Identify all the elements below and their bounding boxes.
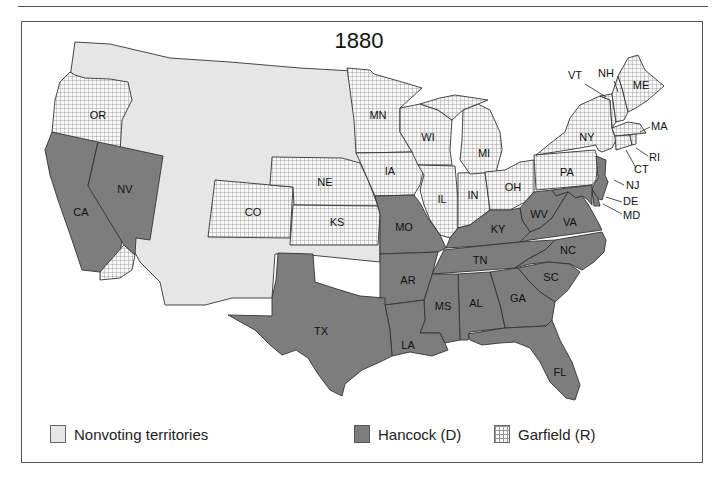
label-CO: CO [245,206,262,218]
hancock-swatch [354,425,370,443]
label-KS: KS [330,216,345,228]
label-IN: IN [468,189,479,201]
label-NH: NH [598,67,614,79]
label-MN: MN [369,109,386,121]
label-IL: IL [437,193,446,205]
map-title: 1880 [0,28,718,54]
us-electoral-map: OR CA NV CO NE KS TX MN IA MO AR LA WI I… [0,0,718,484]
label-CT: CT [634,163,649,175]
state-FL[interactable] [468,320,580,400]
label-NE: NE [317,176,332,188]
label-NV: NV [117,183,133,195]
state-CT[interactable] [615,135,632,150]
label-NY: NY [579,131,595,143]
legend-label-hancock: Hancock (D) [378,426,461,443]
label-WV: WV [530,208,548,220]
label-MS: MS [435,300,452,312]
state-MA[interactable] [612,122,646,136]
nonvoting-swatch [50,425,66,443]
label-VA: VA [563,216,578,228]
state-MI[interactable] [460,104,502,174]
label-RI: RI [649,151,660,163]
label-MO: MO [395,221,413,233]
label-ME: ME [633,79,650,91]
label-NJ: NJ [626,179,639,191]
label-VT: VT [568,69,582,81]
label-GA: GA [510,292,527,304]
legend-item-garfield: Garfield (R) [494,425,596,443]
label-PA: PA [560,166,575,178]
label-MA: MA [651,120,668,132]
label-OH: OH [505,181,522,193]
label-TX: TX [314,325,329,337]
label-SC: SC [543,271,558,283]
legend-item-nonvoting: Nonvoting territories [50,425,208,443]
label-KY: KY [491,223,506,235]
garfield-swatch [494,425,510,443]
label-CA: CA [73,206,89,218]
label-DE: DE [623,195,638,207]
legend-label-garfield: Garfield (R) [518,426,596,443]
label-TN: TN [473,254,488,266]
label-WI: WI [421,131,434,143]
label-IA: IA [385,165,396,177]
legend-item-hancock: Hancock (D) [354,425,461,443]
label-NC: NC [560,244,576,256]
legend: Nonvoting territories Hancock (D) Garfie… [0,425,718,449]
label-FL: FL [554,366,567,378]
label-MD: MD [623,209,640,221]
label-AL: AL [469,297,482,309]
legend-label-nonvoting: Nonvoting territories [74,426,208,443]
label-OR: OR [90,109,107,121]
label-AR: AR [400,274,415,286]
label-MI: MI [478,147,490,159]
label-LA: LA [401,339,415,351]
state-NY[interactable] [536,96,616,155]
